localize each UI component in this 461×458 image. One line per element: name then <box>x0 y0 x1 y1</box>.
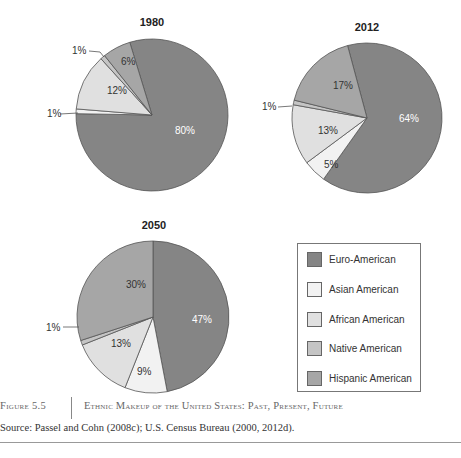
slice-label-asian: 9% <box>137 366 152 377</box>
caption-rule <box>0 442 461 443</box>
legend-swatch-african-american <box>307 312 322 327</box>
legend-swatch-native-american <box>307 341 322 356</box>
slice-label-euro: 64% <box>399 113 419 124</box>
figure-title: Ethnic Makeup of the United States: Past… <box>84 400 343 411</box>
pie-title-2012: 2012 <box>337 21 397 33</box>
pie-chart-2050: 47%9%13%1%30% <box>46 241 229 393</box>
callout-line <box>278 106 292 107</box>
legend-item-euro-american: Euro-American <box>307 250 396 268</box>
legend-swatch-euro-american <box>307 252 322 267</box>
legend-swatch-asian-american <box>307 282 322 297</box>
legend: Euro-American Asian American African Ame… <box>297 243 421 392</box>
legend-item-hispanic-american: Hispanic American <box>307 369 412 387</box>
pie-title-2050: 2050 <box>124 219 184 231</box>
pie-chart-1980: 80%1%12%1%6% <box>47 39 228 191</box>
slice-label-asian: 1% <box>47 108 62 119</box>
legend-label: Euro-American <box>329 254 396 265</box>
legend-item-native-american: Native American <box>307 339 402 357</box>
slice-label-euro: 47% <box>192 314 212 325</box>
slice-label-african: 13% <box>318 125 338 136</box>
legend-label: Native American <box>329 343 402 354</box>
slice-label-hispanic: 17% <box>333 80 353 91</box>
slice-label-hispanic: 6% <box>121 56 136 67</box>
caption-divider <box>71 397 72 419</box>
legend-swatch-hispanic-american <box>307 371 322 386</box>
pie-slice-euro <box>153 241 229 392</box>
legend-label: African American <box>329 314 405 325</box>
legend-label: Hispanic American <box>329 373 412 384</box>
pie-title-1980: 1980 <box>122 16 182 28</box>
legend-item-african-american: African American <box>307 310 405 328</box>
slice-label-euro: 80% <box>175 125 195 136</box>
slice-label-native: 1% <box>72 45 87 56</box>
slice-label-african: 12% <box>107 85 127 96</box>
callout-line <box>89 51 104 57</box>
callout-line <box>60 113 78 114</box>
slice-label-hispanic: 30% <box>126 279 146 290</box>
figure-source: Source: Passel and Cohn (2008c); U.S. Ce… <box>0 422 294 433</box>
pie-chart-2012: 64%5%13%1%17% <box>262 43 442 193</box>
slice-label-native: 1% <box>46 322 61 333</box>
legend-label: Asian American <box>329 284 398 295</box>
slice-label-native: 1% <box>262 101 277 112</box>
figure-number: Figure 5.5 <box>0 400 46 411</box>
slice-label-asian: 5% <box>324 159 339 170</box>
slice-label-african: 13% <box>111 338 131 349</box>
legend-item-asian-american: Asian American <box>307 280 398 298</box>
